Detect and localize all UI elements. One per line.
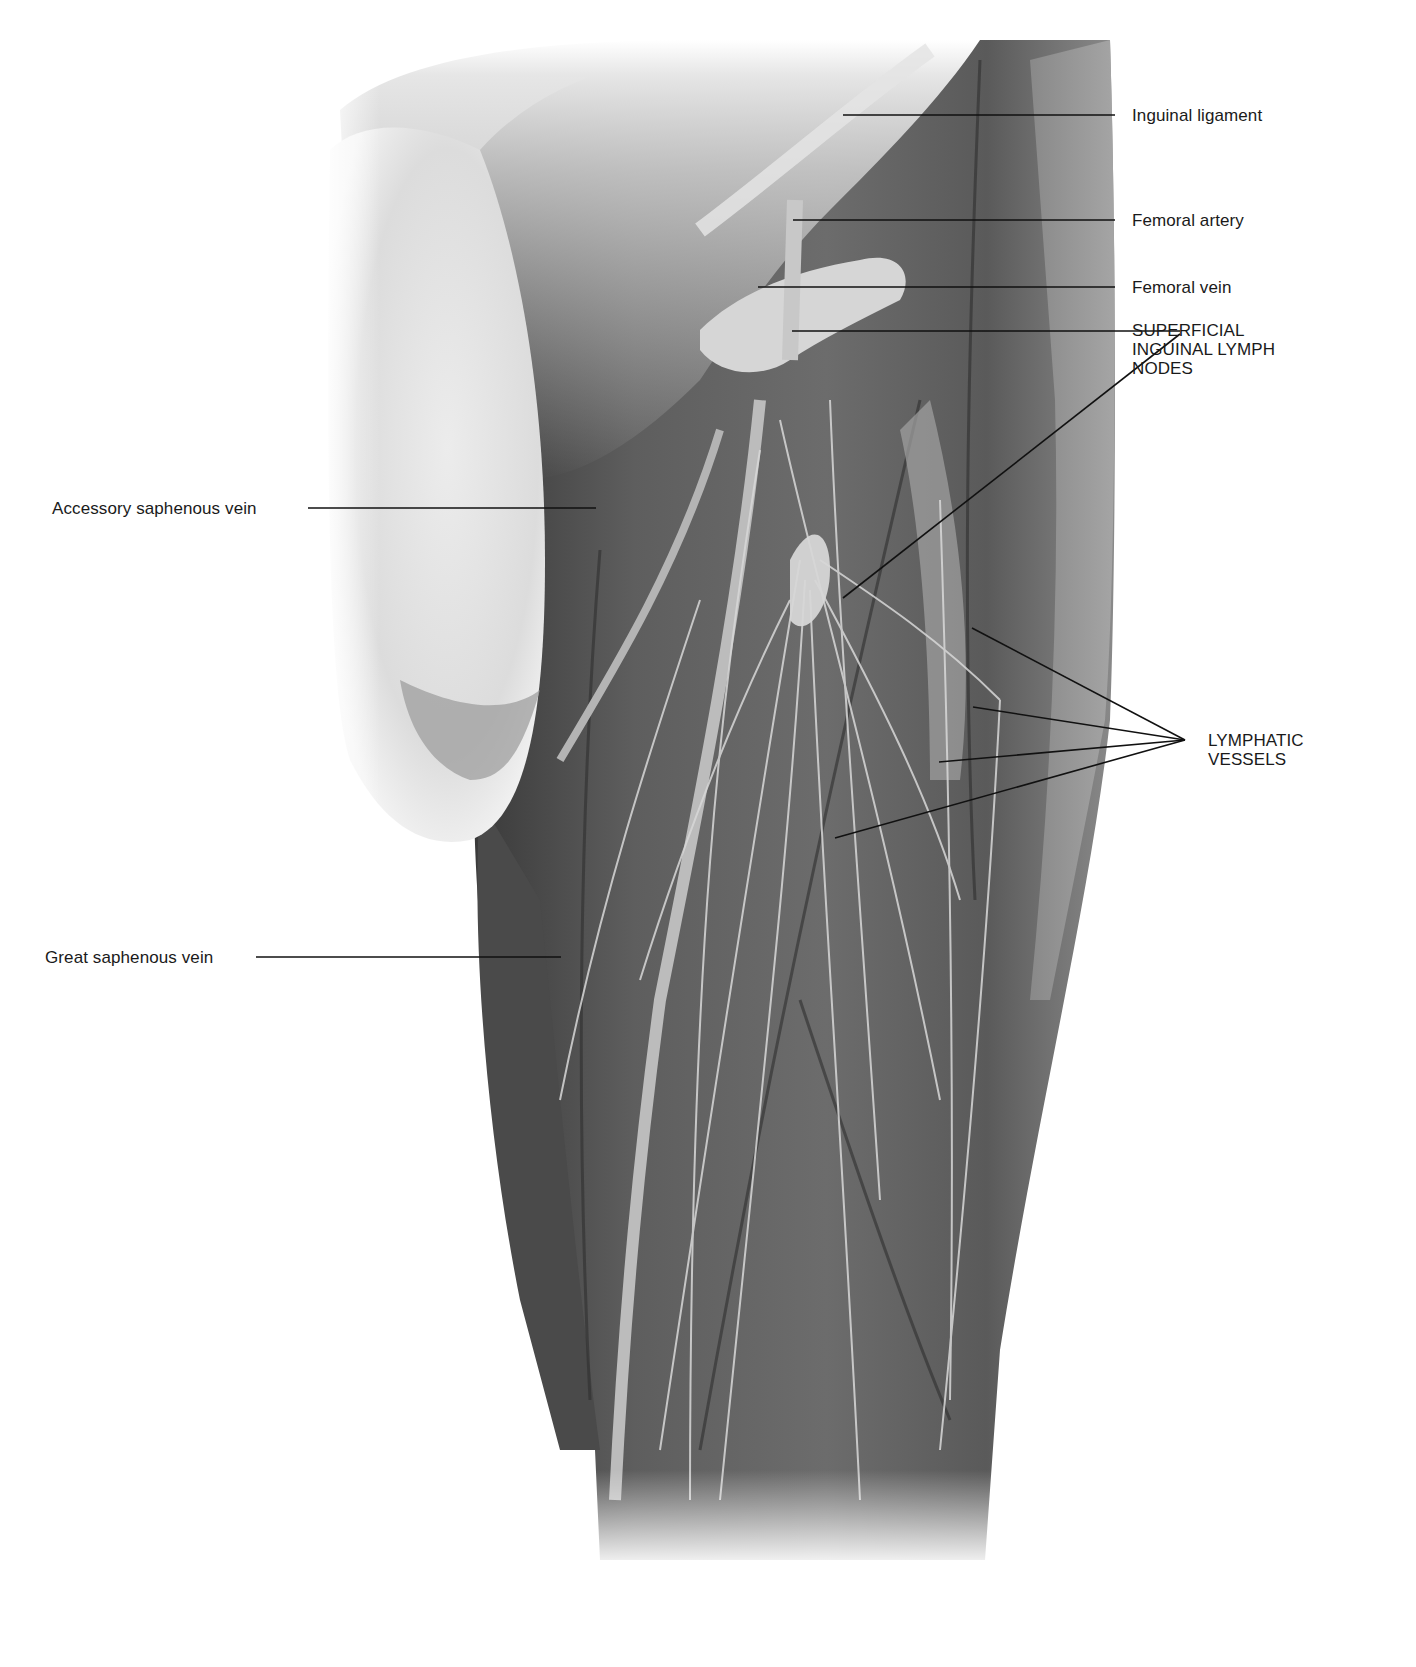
label-inguinal-ligament: Inguinal ligament <box>1132 106 1262 125</box>
dissection-figure <box>0 0 1416 1667</box>
label-femoral-artery: Femoral artery <box>1132 211 1244 230</box>
label-great-saphenous-vein: Great saphenous vein <box>45 948 213 967</box>
femoral-vessel <box>790 200 795 360</box>
label-lymphatic-vessels: LYMPHATIC VESSELS <box>1208 731 1304 769</box>
label-superficial-inguinal-lymph-nodes: SUPERFICIAL INGUINAL LYMPH NODES <box>1132 321 1275 378</box>
bottom-fade <box>580 1470 1010 1570</box>
left-fade <box>320 80 380 880</box>
label-accessory-saphenous-vein: Accessory saphenous vein <box>52 499 257 518</box>
label-femoral-vein: Femoral vein <box>1132 278 1231 297</box>
